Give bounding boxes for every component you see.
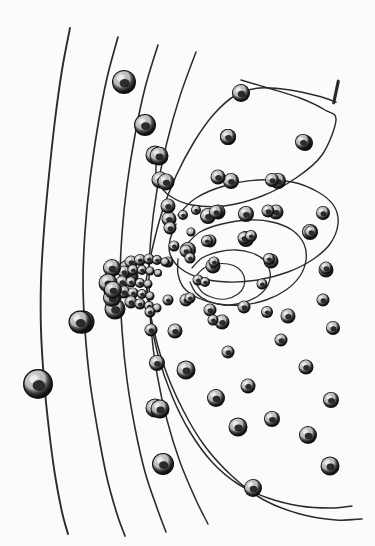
spiral-wave-diagram (0, 0, 375, 546)
figure-root (0, 0, 375, 546)
paper-grain-overlay (0, 0, 375, 546)
